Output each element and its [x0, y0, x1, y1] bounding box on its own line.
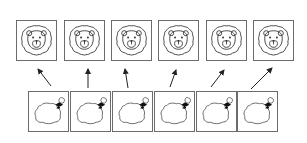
- bag-with-bow-icon: [113, 92, 152, 131]
- arrow-1: [38, 69, 51, 86]
- bag-card-4: [154, 91, 195, 132]
- bag-card-6: [237, 91, 278, 132]
- arrow-4: [170, 70, 176, 87]
- lion-card-2: [64, 20, 105, 61]
- arrow-6: [251, 68, 272, 89]
- bag-with-bow-icon: [197, 92, 236, 131]
- lion-face-icon: [112, 21, 151, 60]
- bag-with-bow-icon: [155, 92, 194, 131]
- lion-card-6: [253, 20, 294, 61]
- bag-with-bow-icon: [71, 92, 110, 131]
- lion-card-1: [16, 20, 57, 61]
- lion-card-3: [111, 20, 152, 61]
- bag-with-bow-icon: [238, 92, 277, 131]
- lion-face-icon: [17, 21, 56, 60]
- arrow-3: [125, 69, 128, 88]
- arrow-5: [211, 70, 224, 87]
- bag-card-5: [196, 91, 237, 132]
- bag-with-bow-icon: [29, 92, 68, 131]
- lion-face-icon: [65, 21, 104, 60]
- bag-card-1: [28, 91, 69, 132]
- lion-face-icon: [159, 21, 198, 60]
- lion-face-icon: [207, 21, 246, 60]
- bag-card-2: [70, 91, 111, 132]
- bag-card-3: [112, 91, 153, 132]
- lion-face-icon: [254, 21, 293, 60]
- lion-card-5: [206, 20, 247, 61]
- lion-card-4: [158, 20, 199, 61]
